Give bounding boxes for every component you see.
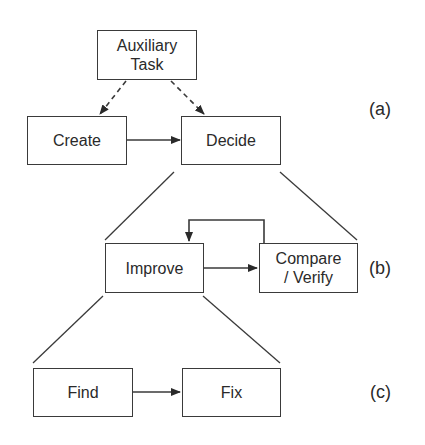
node-compare-verify: Compare / Verify: [259, 243, 358, 293]
expansion-line-decide-right: [280, 172, 357, 240]
node-create: Create: [27, 116, 127, 165]
expansion-line-improve-left: [33, 296, 103, 363]
node-decide: Decide: [181, 116, 281, 165]
node-find: Find: [33, 368, 133, 417]
dashed-arrow-aux-decide: [171, 81, 204, 114]
expansion-line-decide-left: [105, 172, 174, 240]
dashed-arrow-aux-create: [100, 81, 126, 114]
node-improve: Improve: [105, 243, 204, 293]
level-label-b: (b): [369, 258, 391, 279]
node-auxiliary-task: Auxiliary Task: [97, 30, 197, 80]
level-label-c: (c): [370, 382, 391, 403]
expansion-line-improve-right: [203, 296, 280, 363]
level-label-a: (a): [369, 99, 391, 120]
node-fix: Fix: [182, 368, 281, 417]
loop-arrow-compare-improve: [189, 220, 264, 243]
